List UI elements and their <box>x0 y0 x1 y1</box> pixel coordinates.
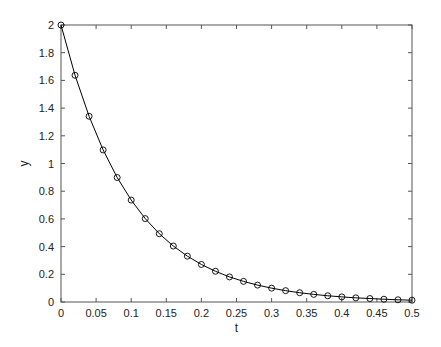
y-axis-label: y <box>17 161 31 167</box>
y-tick-label: 0.6 <box>39 213 54 225</box>
y-tick-label: 1.4 <box>39 102 54 114</box>
y-tick-label: 1.8 <box>39 47 54 59</box>
x-axis-label: t <box>235 321 239 335</box>
x-tick-label: 0.3 <box>264 307 279 319</box>
x-tick-label: 0.15 <box>156 307 177 319</box>
plot-area <box>61 25 412 302</box>
x-tick-label: 0 <box>58 307 64 319</box>
y-tick-label: 0.4 <box>39 241 54 253</box>
data-series <box>58 22 415 303</box>
y-tick-label: 1.2 <box>39 130 54 142</box>
y-tick-label: 0.2 <box>39 268 54 280</box>
x-tick-label: 0.5 <box>404 307 419 319</box>
y-tick-label: 1 <box>48 158 54 170</box>
x-tick-label: 0.25 <box>226 307 247 319</box>
y-tick-label: 1.6 <box>39 74 54 86</box>
x-tick-label: 0.35 <box>296 307 317 319</box>
line-chart: 00.050.10.150.20.250.30.350.40.450.500.2… <box>0 0 441 347</box>
x-tick-label: 0.4 <box>334 307 349 319</box>
x-tick-label: 0.1 <box>124 307 139 319</box>
y-tick-label: 0 <box>48 296 54 308</box>
y-tick-label: 2 <box>48 19 54 31</box>
x-tick-label: 0.2 <box>194 307 209 319</box>
x-tick-label: 0.45 <box>366 307 387 319</box>
y-tick-label: 0.8 <box>39 185 54 197</box>
x-tick-label: 0.05 <box>85 307 106 319</box>
